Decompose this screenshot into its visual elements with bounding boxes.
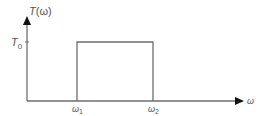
pulse-rectangle [77,42,153,101]
y-axis-arrowhead-icon [23,16,31,25]
y-axis-label: T(ω) [29,5,52,17]
x-axis-arrowhead-icon [235,97,244,105]
omega2-label: ω2 [148,104,159,115]
omega1-label: ω1 [72,104,83,115]
x-axis-label: ω [247,96,254,106]
pulse-diagram: T(ω) T0 ω1 ω2 ω [0,0,264,116]
t0-label: T0 [11,36,23,51]
